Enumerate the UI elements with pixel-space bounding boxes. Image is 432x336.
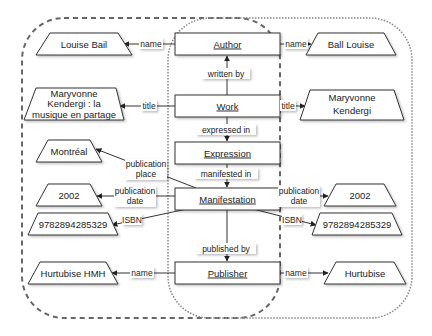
- edge-label-isbn-left: ISBN: [122, 215, 142, 225]
- literal-maryvonne-right-line2: Kendergi: [333, 105, 371, 116]
- entity-publisher-label: Publisher: [208, 268, 248, 279]
- edge-label-publication-date-right-line2: date: [291, 196, 308, 206]
- edge-label-publication-date-left-line1: publication: [115, 186, 156, 196]
- literal-ball-louise-text: Ball Louise: [328, 39, 374, 50]
- entity-manifestation-label: Manifestation: [199, 194, 256, 205]
- literal-louise-bail-text: Louise Bail: [61, 39, 107, 50]
- literal-hurtubise-hmh[interactable]: Hurtubise HMH: [28, 262, 118, 284]
- literal-isbn-right-text: 9782894285329: [323, 219, 392, 230]
- literal-montreal[interactable]: Montréal: [36, 140, 102, 162]
- edge-label-publisher-name-left: name: [131, 268, 153, 278]
- literal-date-left[interactable]: 2002: [36, 184, 102, 206]
- literal-isbn-right[interactable]: 9782894285329: [312, 213, 402, 235]
- literal-montreal-text: Montréal: [51, 146, 88, 157]
- edge-label-manifested-in: manifested in: [201, 169, 252, 179]
- edge-label-work-title-left: title: [142, 101, 156, 111]
- edge-label-publication-date-left-line2: date: [127, 196, 144, 206]
- literal-maryvonne-left-line2: Kendergi : la: [47, 98, 101, 109]
- entity-author[interactable]: Author: [175, 33, 280, 55]
- literal-louise-bail[interactable]: Louise Bail: [36, 33, 132, 55]
- literal-hurtubise-text: Hurtubise: [345, 268, 386, 279]
- literal-maryvonne-right[interactable]: Maryvonne Kendergi: [300, 90, 404, 120]
- edge-label-publisher-name-right: name: [285, 268, 307, 278]
- literal-hurtubise[interactable]: Hurtubise: [324, 262, 406, 284]
- literal-ball-louise[interactable]: Ball Louise: [306, 33, 396, 55]
- edge-label-work-title-right: title: [281, 101, 295, 111]
- edge-label-expressed-in: expressed in: [202, 125, 250, 135]
- edge-label-author-name-left: name: [140, 39, 162, 49]
- edge-label-author-name-right: name: [285, 39, 307, 49]
- entity-publisher[interactable]: Publisher: [175, 262, 280, 284]
- entity-expression-label: Expression: [204, 148, 251, 159]
- edge-label-isbn-right: ISBN: [282, 215, 302, 225]
- literal-isbn-left-text: 9782894285329: [39, 219, 108, 230]
- entity-work[interactable]: Work: [175, 95, 280, 117]
- edge-label-published-by: published by: [202, 244, 250, 254]
- literal-date-right-text: 2002: [349, 190, 370, 201]
- edge-label-publication-date-right-line1: publication: [279, 186, 320, 196]
- entity-author-label: Author: [214, 39, 242, 50]
- entity-work-label: Work: [217, 101, 239, 112]
- literal-hurtubise-hmh-text: Hurtubise HMH: [41, 268, 106, 279]
- literal-isbn-left[interactable]: 9782894285329: [28, 213, 118, 235]
- literal-maryvonne-right-line1: Maryvonne: [329, 92, 376, 103]
- entity-expression[interactable]: Expression: [175, 142, 280, 164]
- edge-label-publication-place-line2: place: [136, 169, 157, 179]
- literal-date-left-text: 2002: [58, 190, 79, 201]
- edge-label-publication-place-line1: publication: [126, 159, 167, 169]
- edge-label-written-by: written by: [207, 69, 245, 79]
- literal-date-right[interactable]: 2002: [324, 184, 396, 206]
- entity-manifestation[interactable]: Manifestation: [175, 188, 280, 210]
- literal-maryvonne-left[interactable]: Maryvonne Kendergi : la musique en parta…: [24, 88, 124, 120]
- literal-maryvonne-left-line3: musique en partage: [32, 109, 116, 120]
- frbr-diagram: Author Work Expression Manifestation Pub…: [0, 0, 432, 336]
